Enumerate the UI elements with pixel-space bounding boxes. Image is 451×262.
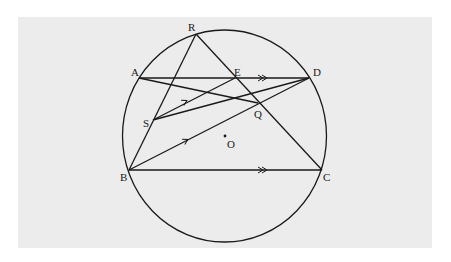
label-s: S bbox=[143, 117, 149, 129]
label-q: Q bbox=[254, 108, 262, 120]
label-b: B bbox=[120, 171, 127, 183]
label-d: D bbox=[313, 66, 321, 78]
label-e: E bbox=[234, 66, 241, 78]
center-point-o bbox=[224, 135, 227, 138]
label-o: O bbox=[227, 138, 235, 150]
geometry-diagram: R A E D S Q O B C bbox=[0, 0, 451, 262]
diagram-background bbox=[18, 17, 432, 248]
label-r: R bbox=[188, 21, 196, 33]
label-c: C bbox=[323, 171, 330, 183]
label-a: A bbox=[131, 66, 139, 78]
